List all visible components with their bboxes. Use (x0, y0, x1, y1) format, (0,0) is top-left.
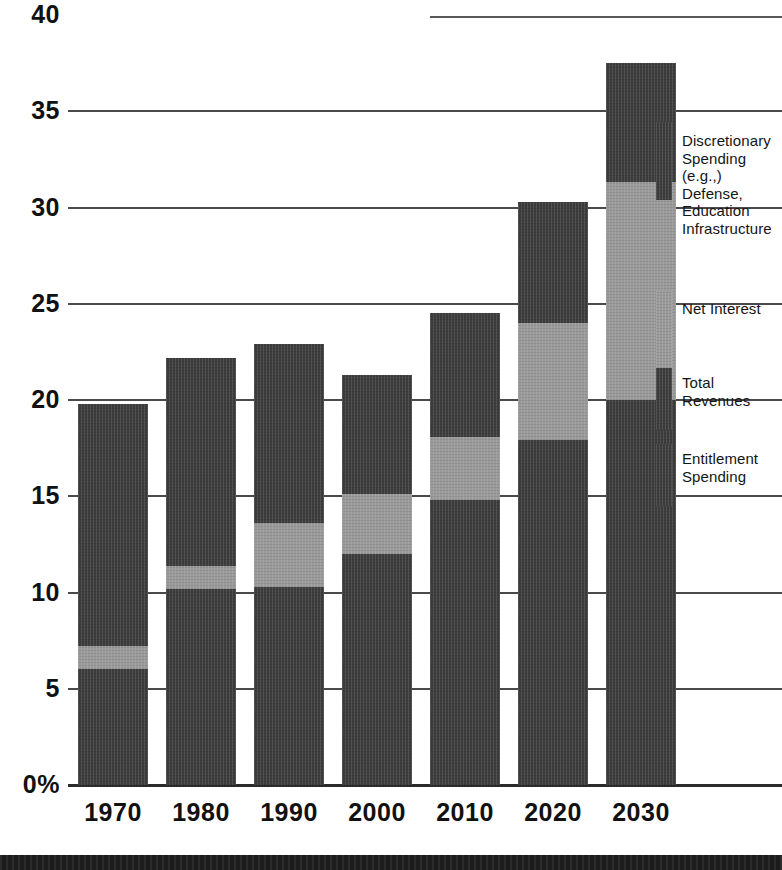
y-axis-tick-label: 10 (2, 580, 60, 605)
y-axis-tick-label: 20 (2, 387, 60, 412)
bar-segment (166, 566, 236, 589)
x-axis-tick-label: 1980 (158, 800, 244, 825)
bar-2010 (430, 313, 500, 785)
y-axis-tick-label: 5 (2, 676, 60, 701)
bar-segment (518, 323, 588, 440)
bar-2000 (342, 375, 412, 785)
bar-segment (78, 646, 148, 669)
legend-swatch (656, 368, 672, 430)
bar-1970 (78, 404, 148, 785)
x-axis-tick-label: 2020 (510, 800, 596, 825)
bar-segment (430, 313, 500, 436)
bar-segment (254, 523, 324, 587)
legend-swatch (656, 290, 672, 368)
y-axis-tick-label: 25 (2, 291, 60, 316)
bar-segment (430, 437, 500, 501)
x-axis-tick-label: 2000 (334, 800, 420, 825)
legend-item: Net Interest (656, 290, 782, 368)
x-axis-tick-label: 1970 (70, 800, 156, 825)
bar-segment (342, 554, 412, 785)
legend-swatch (656, 122, 672, 200)
legend-item: Total Revenues (656, 368, 782, 430)
bar-segment (254, 344, 324, 523)
legend-label: Net Interest (682, 300, 782, 318)
y-axis-tick-label: 0% (2, 772, 60, 797)
y-axis-tick-label: 30 (2, 195, 60, 220)
bar-segment (518, 202, 588, 323)
bar-1980 (166, 358, 236, 785)
x-axis-tick-label: 2010 (422, 800, 508, 825)
bar-segment (166, 358, 236, 566)
legend-item: Entitlement Spending (656, 444, 782, 506)
y-axis-tick-label: 40 (2, 2, 60, 27)
legend-label: Total Revenues (682, 374, 782, 409)
bar-segment (254, 587, 324, 785)
bar-segment (518, 440, 588, 785)
legend-swatch (656, 444, 672, 506)
legend-label: Discretionary Spending (e.g.,) Defense, … (682, 132, 782, 237)
bar-segment (78, 404, 148, 647)
stacked-bar-chart: 4035302520151050% 1970198019902000201020… (0, 0, 782, 870)
bar-segment (342, 494, 412, 554)
y-axis-tick-label: 35 (2, 98, 60, 123)
legend-item: Discretionary Spending (e.g.,) Defense, … (656, 122, 782, 200)
x-axis-tick-label: 2030 (598, 800, 684, 825)
bar-segment (342, 375, 412, 494)
bottom-band (0, 855, 782, 870)
chart-legend: Discretionary Spending (e.g.,) Defense, … (656, 110, 782, 600)
bar-segment (430, 500, 500, 785)
bar-1990 (254, 344, 324, 785)
legend-label: Entitlement Spending (682, 450, 782, 485)
y-axis-tick-label: 15 (2, 483, 60, 508)
bar-segment (166, 589, 236, 785)
bar-segment (78, 669, 148, 785)
top-rule (430, 16, 782, 18)
x-axis-tick-label: 1990 (246, 800, 332, 825)
bar-2020 (518, 202, 588, 785)
